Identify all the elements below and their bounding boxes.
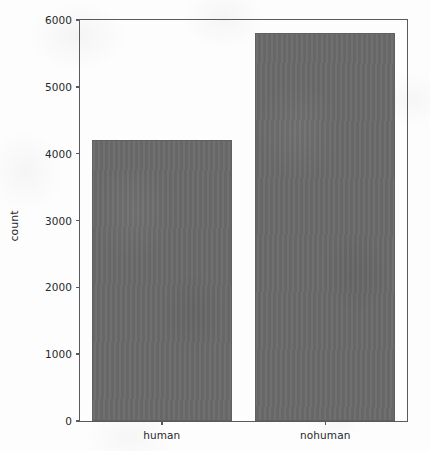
bar-chart-figure: count 0100020003000400050006000humannohu… xyxy=(0,0,430,451)
bar-nohuman xyxy=(255,33,395,421)
y-axis-tick-label: 5000 xyxy=(45,81,72,93)
y-axis-tick xyxy=(76,19,80,21)
plot-axes: 0100020003000400050006000humannohuman xyxy=(79,19,408,422)
y-axis-tick-label: 2000 xyxy=(45,281,72,293)
x-axis-tick xyxy=(161,421,163,425)
y-axis-label: count xyxy=(8,210,21,241)
x-axis-tick-label: nohuman xyxy=(300,429,350,441)
y-axis-tick xyxy=(76,420,80,422)
y-axis-tick xyxy=(76,353,80,355)
x-axis-tick xyxy=(325,421,327,425)
y-axis-tick-label: 4000 xyxy=(45,148,72,160)
y-axis-tick xyxy=(76,153,80,155)
y-axis-tick xyxy=(76,220,80,222)
y-axis-tick-label: 6000 xyxy=(45,14,72,26)
y-axis-tick xyxy=(76,86,80,88)
y-axis-tick-label: 0 xyxy=(65,415,72,427)
y-axis-tick-label: 1000 xyxy=(45,348,72,360)
x-axis-tick-label: human xyxy=(143,429,180,441)
y-axis-tick xyxy=(76,287,80,289)
y-axis-tick-label: 3000 xyxy=(45,215,72,227)
plot-area xyxy=(80,20,407,421)
bar-human xyxy=(92,140,232,421)
